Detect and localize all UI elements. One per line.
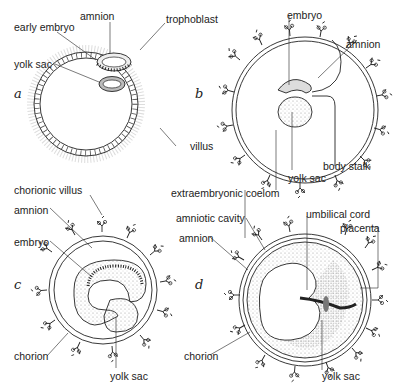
label-c-yolk-sac: yolk sac xyxy=(110,370,148,382)
panel-a-letter: a xyxy=(14,86,22,101)
label-b-body-stalk: body stalk xyxy=(323,160,370,172)
label-d-chorion: chorion xyxy=(184,350,218,362)
label-c-chorionic-villus: chorionic villus xyxy=(14,184,82,196)
label-c-embryo: embryo xyxy=(14,236,49,248)
panel-a-drawing xyxy=(31,22,176,159)
panel-d-letter: d xyxy=(195,277,203,292)
embryo-development-diagram: a b c d early embryo amnion trophoblast … xyxy=(0,0,395,390)
label-d-yolk-sac: yolk sac xyxy=(322,370,360,382)
panel-c-drawing xyxy=(31,195,177,368)
label-a-early-embryo: early embryo xyxy=(14,21,75,33)
label-d-amnion: amnion xyxy=(179,232,213,244)
label-a-villus: villus xyxy=(190,140,213,152)
panel-c-letter: c xyxy=(14,277,21,292)
label-a-trophoblast: trophoblast xyxy=(166,13,218,25)
label-d-placenta: placenta xyxy=(340,222,380,234)
label-d-amniotic-cavity: amniotic cavity xyxy=(176,212,245,224)
label-c-amnion: amnion xyxy=(14,204,48,216)
label-d-umbilical-cord: umbilical cord xyxy=(306,208,370,220)
label-b-yolk-sac: yolk sac xyxy=(288,172,326,184)
label-b-embryo: embryo xyxy=(287,9,322,21)
label-b-extraembryonic-coelom: extraembryonic coelom xyxy=(171,187,280,199)
label-c-chorion: chorion xyxy=(14,350,48,362)
label-a-yolk-sac: yolk sac xyxy=(14,58,52,70)
panel-b-letter: b xyxy=(195,86,203,101)
label-b-amnion: amnion xyxy=(346,38,380,50)
label-a-amnion: amnion xyxy=(80,10,114,22)
